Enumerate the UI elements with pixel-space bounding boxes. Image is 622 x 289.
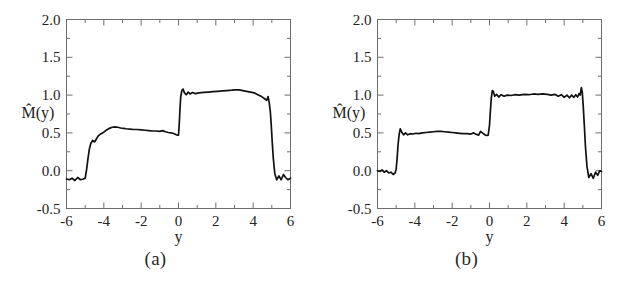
y-tick-label: 0.0	[353, 163, 372, 179]
panel-caption-b: (b)	[311, 248, 622, 270]
x-tick-label: 6	[598, 213, 606, 229]
y-tick-label: 2.0	[42, 12, 61, 28]
y-tick-label: 0.0	[42, 163, 61, 179]
panel-b: -6-4-20246 -0.50.00.51.01.52.0 y M̂(y) (…	[311, 0, 622, 289]
x-tick-label: 4	[560, 213, 568, 229]
figure-container: -6-4-20246 -0.50.00.51.01.52.0 y M̂(y) (…	[0, 0, 622, 289]
y-axis-title-b: M̂(y)	[333, 103, 366, 122]
x-tick-label: -6	[371, 213, 384, 229]
plot-svg-b: -6-4-20246 -0.50.00.51.01.52.0 y M̂(y)	[311, 0, 622, 250]
x-ticks-a	[67, 20, 291, 209]
x-tick-label: -2	[446, 213, 459, 229]
x-tick-label: 0	[175, 213, 183, 229]
y-tick-label: 0.5	[42, 125, 61, 141]
y-axis-title-a: M̂(y)	[22, 103, 55, 122]
plot-frame-a	[67, 20, 291, 209]
data-curve-a	[67, 89, 291, 180]
x-tick-label: 4	[249, 213, 257, 229]
x-tick-label: -4	[98, 213, 111, 229]
y-tick-label: 1.0	[42, 87, 61, 103]
x-tick-label: 2	[523, 213, 531, 229]
axes-group-b: -6-4-20246 -0.50.00.51.01.52.0	[348, 12, 606, 229]
x-tick-label: -2	[135, 213, 148, 229]
plot-svg-a: -6-4-20246 -0.50.00.51.01.52.0 y M̂(y)	[0, 0, 311, 250]
y-tick-label: 1.0	[353, 87, 372, 103]
panel-a: -6-4-20246 -0.50.00.51.01.52.0 y M̂(y) (…	[0, 0, 311, 289]
x-tick-label: -6	[60, 213, 73, 229]
x-tick-label: -4	[409, 213, 422, 229]
y-ticks-a	[67, 20, 291, 209]
x-axis-title-a: y	[175, 228, 183, 246]
x-axis-title-b: y	[486, 228, 494, 246]
data-curve-b	[378, 88, 602, 179]
panel-caption-a: (a)	[0, 248, 311, 270]
x-tick-label: 2	[212, 213, 220, 229]
y-tick-label: 0.5	[353, 125, 372, 141]
y-tick-label: 1.5	[42, 49, 61, 65]
plot-area-a: -6-4-20246 -0.50.00.51.01.52.0 y M̂(y)	[0, 0, 311, 250]
x-tick-labels-a: -6-4-20246	[60, 213, 295, 229]
x-tick-label: 0	[486, 213, 494, 229]
y-tick-label: -0.5	[348, 201, 372, 217]
x-tick-labels-b: -6-4-20246	[371, 213, 606, 229]
y-tick-label: -0.5	[37, 201, 61, 217]
plot-area-b: -6-4-20246 -0.50.00.51.01.52.0 y M̂(y)	[311, 0, 622, 250]
y-tick-label: 2.0	[353, 12, 372, 28]
y-tick-label: 1.5	[353, 49, 372, 65]
axes-group-a: -6-4-20246 -0.50.00.51.01.52.0	[37, 12, 295, 229]
x-tick-label: 6	[287, 213, 295, 229]
